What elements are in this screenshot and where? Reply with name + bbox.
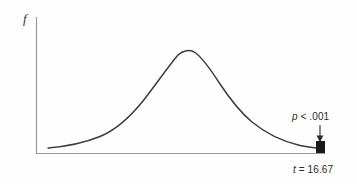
density-curve <box>48 51 321 149</box>
plot-canvas <box>0 0 357 184</box>
t-statistic-value-text: = 16.67 <box>296 164 333 175</box>
t-statistic-annotation: t = 16.67 <box>293 165 333 175</box>
t-distribution-figure: f p < .001 t = 16.67 <box>0 0 357 184</box>
p-value-text: < .001 <box>298 111 330 122</box>
t-statistic-marker <box>316 141 325 153</box>
p-value-annotation: p < .001 <box>292 112 329 122</box>
annotation-arrow <box>317 125 324 143</box>
y-axis-label: f <box>23 12 27 25</box>
